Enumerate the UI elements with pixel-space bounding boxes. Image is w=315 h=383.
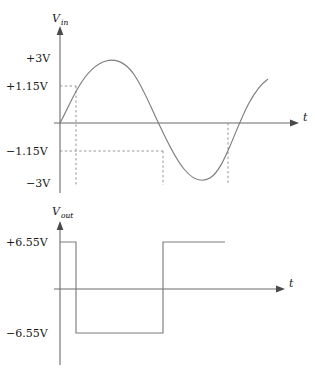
vout-tick-label-plus655v: +6.55V [6, 236, 49, 249]
vout-time-axis-label: t [289, 277, 294, 290]
panel-vout: V out t +6.55V −6.55V [6, 205, 294, 365]
vin-tick-label-plus115v: +1.15V [6, 80, 49, 93]
vin-sine-curve [60, 60, 268, 180]
vout-tick-label-minus655v: −6.55V [6, 327, 49, 340]
vin-axis-label-subscript: in [61, 18, 68, 27]
vin-time-axis-arrowhead [290, 120, 299, 127]
vin-time-axis-label: t [303, 111, 308, 124]
vin-axis-label: V [52, 12, 61, 25]
vout-axis-label: V [52, 205, 61, 218]
vin-tick-label-minus3v: −3V [26, 177, 51, 190]
figure-svg: V in t +3V +1.15V −1.15V −3V V out t [0, 0, 315, 383]
vin-tick-label-minus115v: −1.15V [6, 145, 49, 158]
vout-time-axis-arrowhead [276, 286, 285, 293]
vout-vertical-axis-arrowhead [57, 221, 64, 230]
vout-square-curve [60, 242, 225, 333]
waveform-figure: V in t +3V +1.15V −1.15V −3V V out t [0, 0, 315, 383]
vout-axis-label-subscript: out [61, 211, 74, 220]
panel-vin: V in t +3V +1.15V −1.15V −3V [6, 12, 308, 193]
vin-tick-label-plus3v: +3V [26, 52, 51, 65]
vin-vertical-axis-arrowhead [57, 26, 64, 35]
